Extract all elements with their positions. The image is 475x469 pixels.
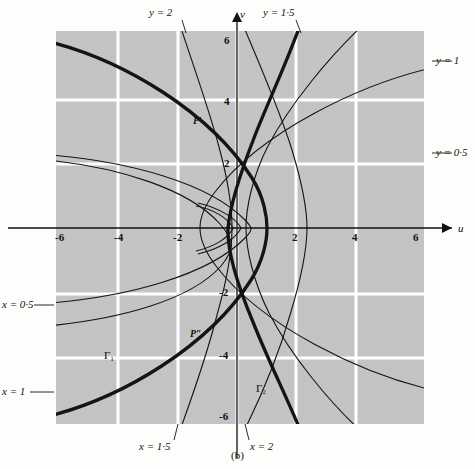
gamma-2-label: Γ₂ — [256, 382, 266, 394]
figure-page: y = 2 y = 1·5 y = 1 y = 0·5 x = 0·5 x = … — [0, 0, 475, 469]
u-axis-label: u — [458, 222, 464, 234]
label-y-equals-1point5: y = 1·5 — [263, 6, 295, 18]
v-tick-minus2: -2 — [219, 286, 228, 298]
v-tick-minus4: -4 — [219, 349, 228, 361]
label-y-equals-2: y = 2 — [149, 6, 172, 18]
gamma-1-label: Γ₁ — [104, 349, 114, 361]
v-tick-2: 2 — [224, 157, 230, 169]
label-y-equals-1: y = 1 — [436, 54, 459, 66]
figure-caption: (b) — [0, 449, 475, 461]
u-tick-6: 6 — [413, 231, 419, 243]
u-tick-minus4: -4 — [114, 231, 123, 243]
conformal-map-figure — [0, 0, 475, 469]
u-tick-minus2: -2 — [173, 231, 182, 243]
label-x-equals-1: x = 1 — [2, 385, 25, 397]
label-y-equals-0point5: y = 0·5 — [436, 146, 468, 158]
point-P-prime: P′ — [193, 115, 202, 126]
v-tick-6: 6 — [224, 34, 230, 46]
v-tick-4: 4 — [224, 95, 230, 107]
point-P-double-prime: P″ — [190, 328, 202, 339]
v-tick-minus6: -6 — [219, 410, 228, 422]
v-axis-label: v — [240, 8, 245, 20]
u-tick-4: 4 — [352, 231, 358, 243]
u-tick-minus6: -6 — [55, 231, 64, 243]
u-tick-2: 2 — [292, 231, 298, 243]
label-x-equals-0point5: x = 0·5 — [2, 298, 34, 310]
